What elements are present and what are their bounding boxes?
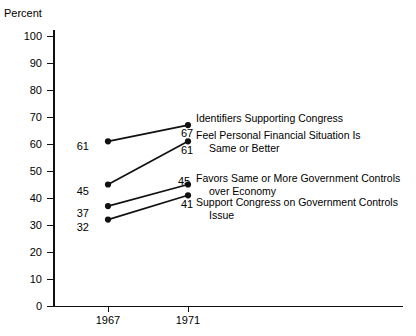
series-label-line1: Favors Same or More Government Controls xyxy=(196,172,400,184)
series-label-line2: Issue xyxy=(196,209,398,222)
series-plot-area xyxy=(0,0,416,336)
series-line-support-congress-government-controls-issue xyxy=(105,192,191,223)
marker-1967-32 xyxy=(105,217,111,223)
series-label-line1: Identifiers Supporting Congress xyxy=(196,112,343,124)
point-value-1967-series4: 32 xyxy=(59,222,89,233)
point-value-1967-series1: 61 xyxy=(59,141,89,152)
point-value-1967-series2: 45 xyxy=(59,186,89,197)
series-label-feel-personal-financial-situation: Feel Personal Financial Situation Is Sam… xyxy=(196,129,361,154)
series-label-line2: Same or Better xyxy=(196,142,361,155)
marker-1967-61 xyxy=(105,138,111,144)
series-label-line1: Support Congress on Government Controls xyxy=(196,196,398,208)
series-label-support-congress-government-controls-issue: Support Congress on Government Controls … xyxy=(196,196,398,221)
line-chart: Percent 100 90 80 70 60 50 40 30 20 10 0… xyxy=(0,0,416,336)
series-label-identifiers-supporting-congress: Identifiers Supporting Congress xyxy=(196,112,343,125)
marker-1967-37 xyxy=(105,203,111,209)
series-line-identifiers-supporting-congress xyxy=(105,122,191,144)
series-label-favors-government-controls-over-economy: Favors Same or More Government Controls … xyxy=(196,172,400,197)
series-label-line1: Feel Personal Financial Situation Is xyxy=(196,129,361,141)
marker-1967-45 xyxy=(105,181,111,187)
point-value-1967-series3: 37 xyxy=(59,208,89,219)
